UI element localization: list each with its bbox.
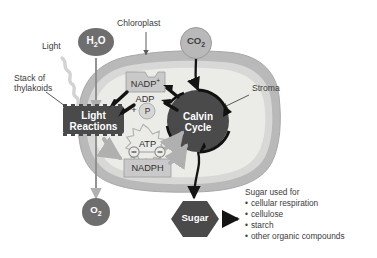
- o2-molecule-label: O2: [80, 205, 112, 218]
- atp-label: ATP: [131, 139, 164, 149]
- photosynthesis-diagram: Chloroplast Light Stack of thylakoids St…: [0, 0, 377, 258]
- nadp-base: NADP: [131, 79, 157, 89]
- nadp-sup: +: [156, 77, 160, 84]
- thylakoid-line-1: Stack of: [14, 73, 52, 83]
- light-reactions-label: Light Reactions: [63, 110, 124, 132]
- light-reactions-line-1: Light: [63, 110, 124, 121]
- sugar-uses-block: Sugar used for cellular respiration cell…: [245, 188, 345, 243]
- co2-molecule-label: CO2: [178, 36, 214, 49]
- water-tail: O: [98, 35, 106, 46]
- callout-light: Light: [42, 41, 61, 51]
- water-molecule-label: H2O: [78, 35, 114, 49]
- nadp-plus-label: NADP+: [126, 77, 165, 89]
- sugar-label: Sugar: [171, 213, 219, 224]
- calvin-cycle-line-2: Cycle: [168, 122, 228, 133]
- list-item: cellular respiration: [245, 199, 345, 209]
- phosphate-label: P: [142, 106, 153, 116]
- calvin-cycle-label: Calvin Cycle: [168, 111, 228, 133]
- list-item: cellulose: [245, 210, 345, 220]
- water-base: H: [86, 35, 93, 46]
- adp-label: ADP: [127, 94, 163, 104]
- list-item: starch: [245, 221, 345, 231]
- calvin-cycle-line-1: Calvin: [168, 111, 228, 122]
- plus-sign-label: +: [129, 105, 139, 115]
- sugar-uses-list: cellular respiration cellulose starch ot…: [245, 199, 345, 241]
- list-item: other organic compounds: [245, 232, 345, 242]
- o2-sub: 2: [98, 210, 102, 217]
- thylakoid-line-2: thylakoids: [14, 83, 52, 93]
- callout-stack-of-thylakoids: Stack of thylakoids: [14, 73, 52, 93]
- co2-base: CO: [187, 35, 201, 46]
- nadph-label: NADPH: [124, 163, 171, 173]
- light-reactions-line-2: Reactions: [63, 121, 124, 132]
- callout-stroma: Stroma: [252, 83, 280, 93]
- co2-sub: 2: [201, 41, 205, 48]
- callout-chloroplast: Chloroplast: [117, 18, 160, 28]
- o2-base: O: [90, 204, 97, 215]
- sugar-uses-heading: Sugar used for: [245, 188, 345, 198]
